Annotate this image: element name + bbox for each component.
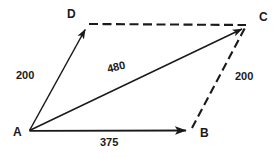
vertex-label-c: C (259, 11, 268, 23)
magnitude-label-ab: 375 (100, 137, 118, 148)
vertex-label-b: B (200, 127, 209, 139)
vertex-label-a: A (13, 126, 22, 138)
magnitude-label-ad: 200 (16, 70, 34, 81)
edge-AC-vector (30, 29, 243, 131)
edge-DC-dashed (89, 24, 246, 25)
vertex-label-d: D (67, 8, 76, 20)
vector-diagram-figure: A B C D 200 200 375 480 (0, 0, 279, 158)
magnitude-label-bc: 200 (235, 71, 253, 82)
edge-AD-vector (30, 30, 86, 131)
